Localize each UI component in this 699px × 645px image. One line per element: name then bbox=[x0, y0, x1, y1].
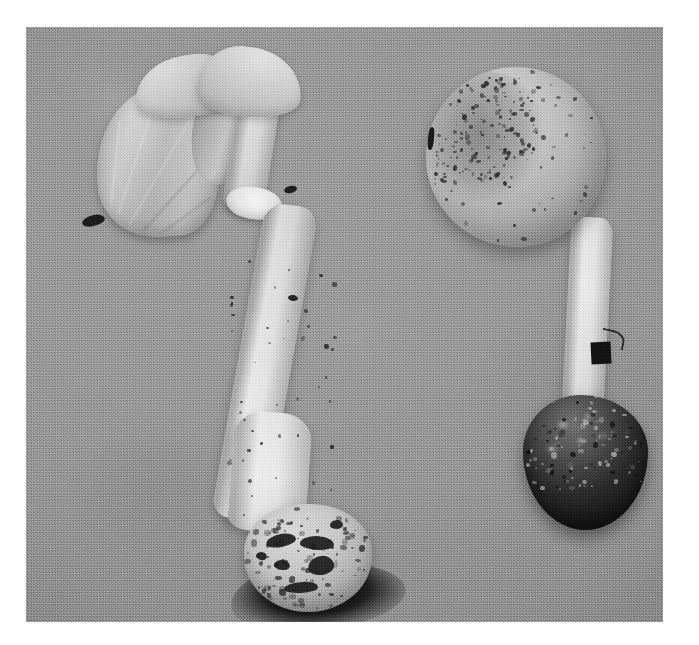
specimen-photograph bbox=[26, 27, 663, 622]
screenshot-root bbox=[0, 0, 699, 645]
photo-grain bbox=[26, 27, 663, 622]
